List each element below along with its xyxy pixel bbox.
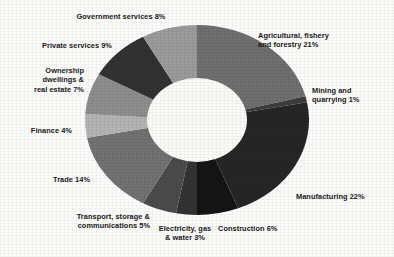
slice-label-manufacturing: Manufacturing 22% — [296, 192, 388, 201]
donut-hole — [147, 78, 247, 162]
slice-label-ownership-dwellings-and-real-estate: Ownership dwellings & real estate 7% — [6, 66, 84, 94]
slice-label-trade: Trade 14% — [30, 175, 90, 184]
slice-label-private-services: Private services 9% — [14, 41, 112, 50]
slice-label-agricultural-fishery-and-forestry: Agricultural, fishery and forestry 21% — [258, 31, 378, 50]
slice-label-construction: Construction 6% — [218, 224, 302, 233]
slice-label-electricity-gas-and-water: Electricity, gas & water 3% — [152, 224, 218, 243]
slice-label-mining-and-quarrying: Mining and quarrying 1% — [312, 86, 390, 105]
slice-label-government-services: Government services 8% — [60, 12, 182, 21]
donut-chart: Agricultural, fishery and forestry 21% M… — [0, 0, 394, 257]
slice-label-finance: Finance 4% — [6, 126, 72, 135]
slice-label-transport-storage-and-communications: Transport, storage & communications 5% — [50, 212, 150, 231]
